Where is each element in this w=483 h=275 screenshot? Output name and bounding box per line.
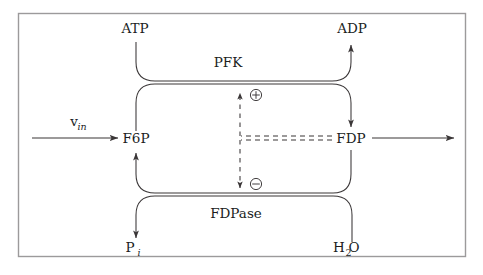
label-f6p: F6P [122,130,149,146]
label-fdpase: FDPase [210,205,262,221]
label-atp: ATP [120,20,148,36]
fdp-to-fdpase-curve [333,150,351,193]
label-v-in-subscript: in [77,121,86,132]
label-pi: P i [125,239,140,258]
inhibition-minus-icon [250,178,261,189]
pathway-diagram: ATP ADP PFK F6P FDP FDPase v in P i H 2 … [0,0,483,275]
label-h2o: H 2 O [333,239,359,258]
label-pi-base: P [125,239,134,255]
pfk-to-fdp-arrow [332,84,351,127]
h2o-input-curve [333,196,352,242]
activation-plus-icon [250,89,261,100]
label-pi-subscript: i [137,247,140,258]
adp-output-arrow [332,45,351,81]
label-adp: ADP [336,20,367,36]
atp-input-curve [136,42,155,81]
label-fdp: FDP [336,130,365,146]
pi-output-arrow [136,196,155,238]
label-v-in: v in [69,113,86,132]
f6p-to-pfk-curve [136,84,155,131]
figure-root: ATP ADP PFK F6P FDP FDPase v in P i H 2 … [0,0,483,275]
label-pfk: PFK [214,54,243,70]
label-h2o-base: H [333,239,345,255]
label-h2o-tail: O [348,239,359,255]
fdpase-to-f6p-arrow [136,153,155,193]
